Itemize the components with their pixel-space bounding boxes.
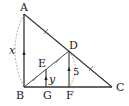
label-D: D	[69, 39, 78, 52]
label-A: A	[19, 1, 29, 14]
label-y: y	[48, 73, 56, 86]
tick-BE	[33, 76, 37, 81]
label-E: E	[38, 57, 46, 70]
label-B: B	[16, 89, 24, 102]
parallel-arrow-AB	[22, 51, 25, 55]
geometry-diagram: A B C D E G F x y 5	[0, 0, 129, 106]
label-C: C	[116, 81, 124, 94]
label-5: 5	[73, 66, 79, 77]
label-F: F	[66, 89, 74, 102]
label-x: x	[9, 44, 16, 57]
label-G: G	[43, 89, 52, 102]
parallel-arrow-EG	[44, 76, 47, 80]
parallel-arrow-DF	[67, 67, 70, 71]
arc-x	[15, 14, 24, 87]
